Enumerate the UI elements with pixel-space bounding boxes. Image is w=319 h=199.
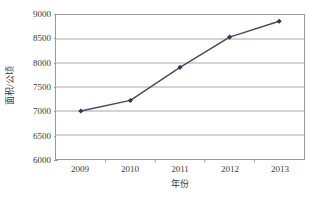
y-axis-tick-label: 7000 bbox=[33, 106, 51, 116]
x-axis-tick-label: 2009 bbox=[71, 164, 89, 174]
x-axis-tick-label: 2012 bbox=[221, 164, 239, 174]
y-axis-tick-label: 8500 bbox=[33, 33, 51, 43]
data-point-markers bbox=[78, 19, 282, 114]
x-axis-title: 年份 bbox=[55, 177, 305, 190]
y-axis-tick-label: 7500 bbox=[33, 82, 51, 92]
x-axis-tick-label: 2011 bbox=[171, 164, 189, 174]
data-point-marker bbox=[78, 108, 83, 113]
plot-svg bbox=[56, 15, 304, 159]
y-axis-tick-label: 9000 bbox=[33, 9, 51, 19]
chart-figure: 面积/公顷 6000650070007500800085009000 20092… bbox=[0, 0, 319, 199]
y-axis-tick-label: 6000 bbox=[33, 155, 51, 165]
x-axis-tick-labels: 20092010201120122013 bbox=[55, 162, 305, 178]
y-axis-tick-mark bbox=[54, 160, 58, 161]
gridlines bbox=[56, 39, 304, 135]
x-axis-tick-label: 2013 bbox=[271, 164, 289, 174]
plot-area bbox=[55, 14, 305, 160]
data-point-marker bbox=[277, 19, 282, 24]
x-axis-tick-label: 2010 bbox=[121, 164, 139, 174]
y-axis-tick-label: 6500 bbox=[33, 131, 51, 141]
y-axis-tick-label: 8000 bbox=[33, 58, 51, 68]
y-axis-tick-labels: 6000650070007500800085009000 bbox=[14, 0, 54, 199]
